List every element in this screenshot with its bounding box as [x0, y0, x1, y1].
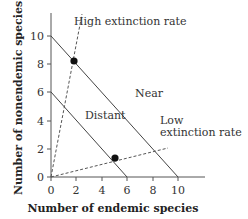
x-tick-label: 2: [73, 184, 80, 197]
x-tick-label: 6: [124, 184, 131, 197]
low-extinction-line: [51, 148, 168, 177]
y-ticks: [47, 36, 51, 177]
y-tick-label: 4: [37, 115, 44, 128]
distant-label: Distant: [85, 109, 126, 122]
high-extinction-label: High extinction rate: [74, 15, 187, 28]
low-extinction-label-line2: extinction rate: [160, 126, 242, 139]
x-ticks: [51, 177, 178, 181]
x-tick-label: 0: [48, 184, 55, 197]
near-label: Near: [135, 87, 164, 100]
equilibrium-point-near-high: [70, 57, 77, 64]
x-tick-label: 4: [99, 184, 106, 197]
x-tick-label: 10: [171, 184, 185, 197]
y-tick-label: 2: [37, 143, 44, 156]
y-tick-label: 6: [37, 86, 44, 99]
y-tick-label: 10: [30, 30, 44, 43]
y-tick-label: 8: [37, 58, 44, 71]
x-tick-label: 8: [150, 184, 157, 197]
y-tick-label: 0: [37, 171, 44, 184]
high-extinction-line: [51, 14, 82, 177]
x-axis-title: Number of endemic species: [28, 202, 199, 215]
equilibrium-point-distant-low: [111, 154, 118, 161]
island-biogeography-chart: 0 2 4 6 8 10 0 2 4 6 8 10 Number of ende…: [0, 0, 248, 219]
y-axis-title: Number of nonendemic species: [12, 1, 25, 195]
distant-line: [51, 92, 127, 177]
